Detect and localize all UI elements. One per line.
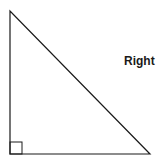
triangle-label: Right [124,54,155,68]
right-triangle-diagram: Right [0,0,167,163]
right-angle-marker [10,142,22,154]
triangle-shape [10,11,150,154]
